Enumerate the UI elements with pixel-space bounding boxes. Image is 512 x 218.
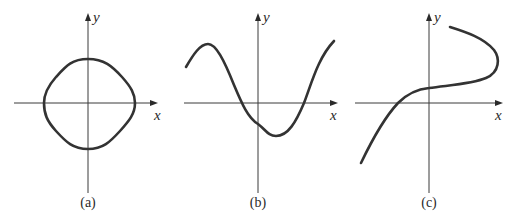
x-axis-label: x: [329, 107, 337, 123]
panel-label-c: (c): [421, 195, 437, 211]
panel-label-a: (a): [80, 195, 96, 211]
y-axis-label: y: [432, 9, 441, 25]
x-axis-label: x: [153, 107, 161, 123]
x-axis-arrow-icon: [495, 100, 503, 106]
figure-canvas: x y (a) x y (b) x y (c): [0, 0, 512, 218]
y-axis-label: y: [261, 9, 270, 25]
panel-label-b: (b): [250, 195, 267, 211]
y-axis-arrow-icon: [426, 13, 432, 21]
panel-c: x y (c): [355, 9, 503, 211]
panel-b: x y (b): [184, 9, 338, 211]
x-axis-arrow-icon: [330, 100, 338, 106]
y-axis-arrow-icon: [255, 13, 261, 21]
y-axis-arrow-icon: [85, 13, 91, 21]
wave-curve: [186, 41, 334, 136]
y-axis-label: y: [91, 9, 100, 25]
closed-loop-curve: [44, 59, 135, 149]
panel-a: x y (a): [14, 9, 161, 211]
x-axis-arrow-icon: [150, 100, 158, 106]
x-axis-label: x: [494, 107, 502, 123]
